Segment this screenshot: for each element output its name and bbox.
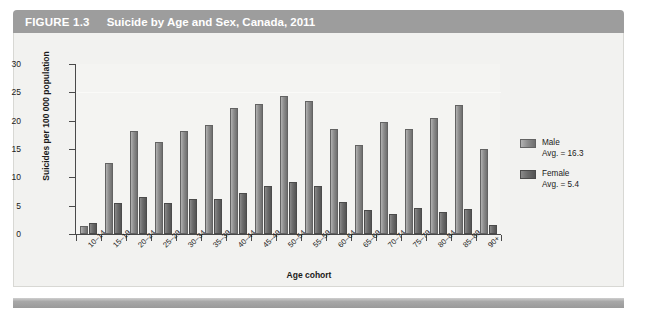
- y-axis-tick-label: 25: [0, 87, 21, 97]
- y-axis-tick: [69, 149, 76, 150]
- bar-female: [489, 225, 497, 234]
- bar-male: [105, 163, 113, 234]
- y-axis-tick: [69, 64, 76, 65]
- bar-male: [380, 122, 388, 234]
- y-axis-tick-label: 20: [0, 115, 21, 125]
- figure-header: FIGURE 1.3 Suicide by Age and Sex, Canad…: [13, 10, 624, 33]
- bar-male: [280, 96, 288, 234]
- bar-female: [89, 223, 97, 234]
- legend-name-female: Female: [542, 169, 569, 178]
- y-axis-tick-label: 10: [0, 172, 21, 182]
- y-axis-title: Suicides per 100 000 population: [41, 26, 51, 206]
- bar-female: [239, 193, 247, 234]
- bar-female: [189, 199, 197, 234]
- legend-item-female: Female Avg. = 5.4: [520, 168, 615, 190]
- bar-female: [264, 186, 272, 234]
- x-axis-tick: [76, 235, 77, 241]
- x-axis-line: [75, 234, 501, 235]
- legend-item-male: Male Avg. = 16.3: [520, 137, 615, 159]
- figure-number: FIGURE 1.3: [25, 16, 90, 28]
- y-axis-tick: [69, 206, 76, 207]
- bar-female: [339, 202, 347, 234]
- x-axis-tick-label: 90+: [486, 234, 501, 249]
- bar-male: [205, 125, 213, 234]
- bar-male: [455, 105, 463, 234]
- legend-swatch-female-icon: [520, 170, 536, 179]
- bar-male: [130, 131, 138, 234]
- bar-male: [230, 108, 238, 234]
- bar-female: [414, 208, 422, 234]
- legend-avg-female: Avg. = 5.4: [542, 180, 579, 189]
- bar-female: [364, 210, 372, 234]
- bar-male: [80, 226, 88, 234]
- bar-female: [114, 203, 122, 234]
- bar-female: [464, 209, 472, 235]
- bar-male: [405, 129, 413, 234]
- y-axis-tick-label: 30: [0, 59, 21, 69]
- bar-female: [389, 214, 397, 234]
- chart-legend: Male Avg. = 16.3 Female Avg. = 5.4: [520, 137, 615, 199]
- bar-female: [314, 186, 322, 234]
- bar-male: [330, 129, 338, 234]
- y-axis-tick: [69, 234, 76, 235]
- y-axis-tick-label: 5: [0, 200, 21, 210]
- bar-female: [289, 182, 297, 234]
- x-axis-title: Age cohort: [184, 270, 434, 280]
- bar-female: [164, 203, 172, 234]
- legend-avg-male: Avg. = 16.3: [542, 149, 584, 158]
- y-axis-tick: [69, 177, 76, 178]
- bar-male: [430, 118, 438, 234]
- bar-male: [255, 104, 263, 234]
- y-axis-tick-label: 0: [0, 229, 21, 239]
- figure-footer-rule: [13, 298, 624, 308]
- chart-panel: Suicides per 100 000 population 05101520…: [13, 33, 624, 287]
- legend-name-male: Male: [542, 138, 560, 147]
- bar-male: [180, 131, 188, 234]
- bar-female: [139, 197, 147, 234]
- legend-label-male: Male Avg. = 16.3: [542, 137, 584, 159]
- bar-female: [439, 212, 447, 234]
- bar-male: [155, 142, 163, 234]
- figure-title: Suicide by Age and Sex, Canada, 2011: [107, 16, 316, 28]
- bar-female: [214, 199, 222, 234]
- y-axis-tick: [69, 121, 76, 122]
- bar-male: [480, 149, 488, 234]
- y-axis-tick: [69, 92, 76, 93]
- bar-male: [305, 101, 313, 234]
- bar-male: [355, 145, 363, 234]
- y-axis-tick-label: 15: [0, 144, 21, 154]
- legend-swatch-male-icon: [520, 139, 536, 148]
- figure-container: FIGURE 1.3 Suicide by Age and Sex, Canad…: [0, 0, 651, 313]
- legend-label-female: Female Avg. = 5.4: [542, 168, 579, 190]
- bars-layer: [76, 64, 501, 234]
